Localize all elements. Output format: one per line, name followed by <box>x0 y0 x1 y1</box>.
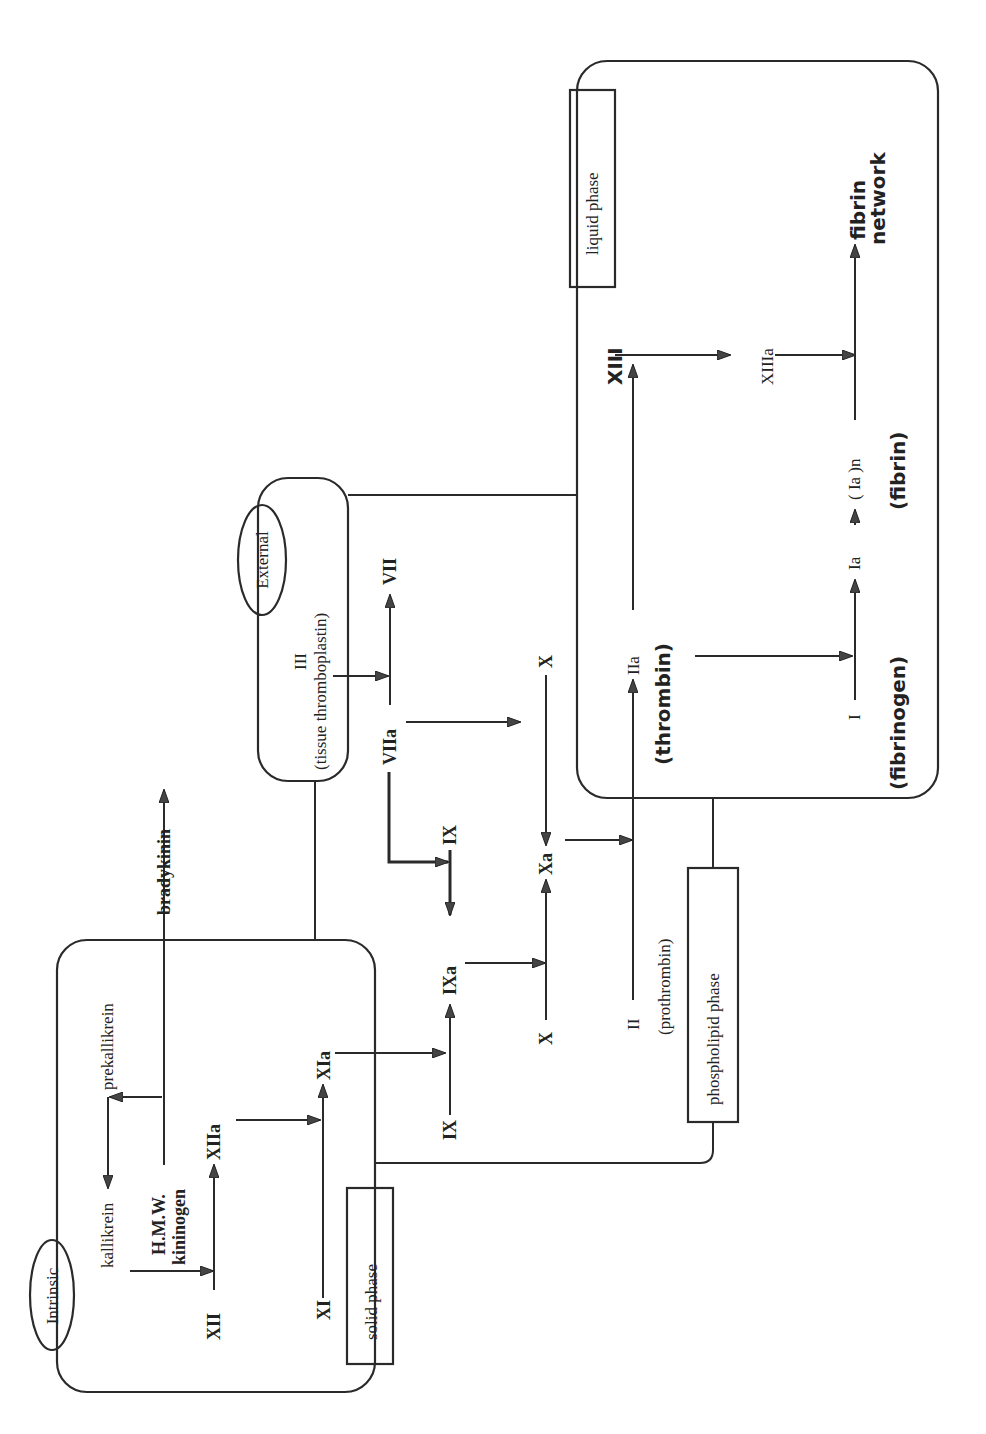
tissue-thromboplastin-label: (tissue thromboplastin) <box>311 613 330 770</box>
factor-XIa: XIa <box>314 1051 334 1080</box>
factor-XIIa: XIIa <box>204 1124 224 1160</box>
factor-XIIIa: XIIIa <box>758 348 777 385</box>
factor-III: III <box>291 653 310 670</box>
liquid-phase-label: liquid phase <box>583 172 602 255</box>
factor-VII: VII <box>380 558 400 585</box>
phospholipid-phase-label: phospholipid phase <box>704 973 723 1105</box>
factor-IIa: IIa <box>624 656 643 675</box>
factor-IX-left: IX <box>440 1120 460 1140</box>
bradykinin-label: bradykinin <box>154 829 174 915</box>
fibrin-label: (fibrin) <box>886 432 910 510</box>
factor-X-right: X <box>536 655 556 668</box>
factor-II: II <box>624 1018 643 1030</box>
external-label: External <box>253 531 272 589</box>
factor-I: I <box>845 714 864 720</box>
fibrin-network-label-2: network <box>866 152 890 245</box>
prothrombin-label: (prothrombin) <box>655 939 674 1035</box>
prekallikrein-label: prekallikrein <box>98 1003 117 1090</box>
factor-Ia-n: ( Ia )n <box>845 458 864 500</box>
kininogen-label: kininogen <box>169 1189 189 1265</box>
factor-Ia: Ia <box>845 556 864 570</box>
intrinsic-label: Intrinsic <box>43 1267 62 1324</box>
fibrinogen-label: (fibrinogen) <box>886 656 910 790</box>
hmw-label: H.M.W. <box>149 1194 169 1255</box>
factor-XIII: XIII <box>603 347 627 385</box>
factor-XII: XII <box>204 1313 224 1340</box>
factor-Xa: Xa <box>536 853 556 875</box>
factor-X-left: X <box>536 1032 556 1045</box>
factor-IXa: IXa <box>440 966 460 995</box>
kallikrein-label: kallikrein <box>98 1202 117 1268</box>
factor-XI: XI <box>314 1300 334 1320</box>
external-box <box>238 478 348 781</box>
thrombin-label: (thrombin) <box>651 643 675 765</box>
factor-IX-top: IX <box>440 825 460 845</box>
coagulation-diagram: Intrinsic kallikrein prekallikrein H.M.W… <box>0 0 986 1434</box>
factor-VIIa: VIIa <box>380 729 400 765</box>
solid-phase-label: solid phase <box>362 1264 381 1340</box>
